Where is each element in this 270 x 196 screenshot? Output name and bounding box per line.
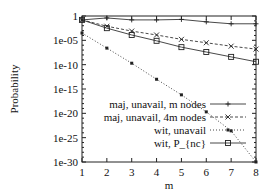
x-tick-label: 4 — [154, 166, 160, 178]
filled-square-marker-icon — [130, 62, 133, 65]
plus-marker-icon — [204, 19, 209, 24]
plus-marker-icon — [154, 17, 159, 22]
y-axis-title-group: Probability — [8, 64, 20, 113]
y-tick-label: 1e-10 — [53, 59, 79, 71]
filled-square-marker-icon — [227, 129, 230, 132]
x-marker-icon — [179, 37, 184, 42]
x-marker-icon — [229, 44, 234, 49]
plus-marker-icon — [226, 102, 231, 107]
probability-chart: Probability m 11e-051e-101e-151e-201e-25… — [0, 0, 270, 196]
legend: maj, unavail, m nodesmaj, unavail, 4m no… — [104, 98, 246, 149]
filled-square-marker-icon — [180, 93, 183, 96]
legend-label: wit, unavail — [154, 124, 206, 136]
legend-label: maj, unavail, 4m nodes — [104, 111, 206, 123]
x-tick-label: 2 — [104, 166, 110, 178]
y-tick-label: 1 — [73, 10, 79, 22]
legend-label: maj, unavail, m nodes — [109, 98, 206, 110]
x-tick-label: 7 — [228, 166, 234, 178]
x-axis-ticks: 12345678 — [79, 16, 259, 178]
x-tick-label: 3 — [129, 166, 135, 178]
x-tick-label: 1 — [79, 166, 85, 178]
series-line — [82, 18, 256, 24]
plus-marker-icon — [179, 17, 184, 22]
x-axis-title: m — [165, 179, 174, 191]
plus-marker-icon — [129, 17, 134, 22]
series-maj-unavail-m-nodes — [80, 15, 259, 26]
y-tick-label: 1e-05 — [53, 34, 79, 46]
y-tick-label: 1e-15 — [53, 83, 79, 95]
legend-label: wit, P_{nc} — [154, 137, 206, 149]
x-marker-icon — [204, 40, 209, 45]
x-tick-label: 8 — [253, 166, 259, 178]
x-tick-label: 5 — [179, 166, 185, 178]
y-tick-label: 1e-30 — [53, 156, 79, 168]
series-wit-p-nc- — [80, 17, 259, 64]
y-tick-label: 1e-25 — [53, 132, 79, 144]
filled-square-marker-icon — [105, 47, 108, 50]
plus-marker-icon — [229, 21, 234, 26]
series-maj-unavail-4m-nodes — [80, 17, 259, 51]
x-tick-label: 6 — [204, 166, 210, 178]
filled-square-marker-icon — [155, 78, 158, 81]
y-tick-label: 1e-20 — [53, 107, 79, 119]
y-axis-title: Probability — [8, 64, 20, 113]
